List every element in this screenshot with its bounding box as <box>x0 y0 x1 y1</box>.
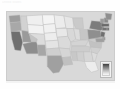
map-region-ia[interactable] <box>56 29 68 38</box>
map-frame[interactable] <box>6 11 115 81</box>
map-region-pa[interactable] <box>87 29 102 39</box>
map-region-ri[interactable] <box>107 28 109 31</box>
map-region-ks[interactable] <box>45 40 59 49</box>
map-region-nm[interactable] <box>37 45 46 56</box>
map-region-al[interactable] <box>77 52 85 62</box>
map-region-tn[interactable] <box>71 46 91 52</box>
map-region-sd[interactable] <box>43 24 56 34</box>
legend[interactable] <box>100 61 112 78</box>
map-region-ma[interactable] <box>101 24 109 27</box>
map-region-me[interactable] <box>105 13 112 20</box>
map-region-oh[interactable] <box>80 29 89 40</box>
map-region-md[interactable] <box>95 38 104 42</box>
page-canvas: United States <box>0 0 120 89</box>
us-choropleth-map[interactable] <box>7 12 114 80</box>
map-region-or[interactable] <box>10 22 22 32</box>
map-region-la[interactable] <box>62 57 73 66</box>
map-region-nj[interactable] <box>100 31 105 37</box>
map-region-mt[interactable] <box>27 15 44 26</box>
map-region-wy[interactable] <box>28 25 45 35</box>
map-bottom-shadow <box>6 81 115 83</box>
map-region-ct[interactable] <box>102 28 107 31</box>
legend-gradient-bar <box>102 63 110 76</box>
map-region-vt[interactable] <box>100 19 104 23</box>
map-region-nd[interactable] <box>42 15 55 25</box>
map-region-wa[interactable] <box>9 15 21 23</box>
map-region-ne[interactable] <box>44 32 58 41</box>
header-note: United States <box>2 1 46 8</box>
